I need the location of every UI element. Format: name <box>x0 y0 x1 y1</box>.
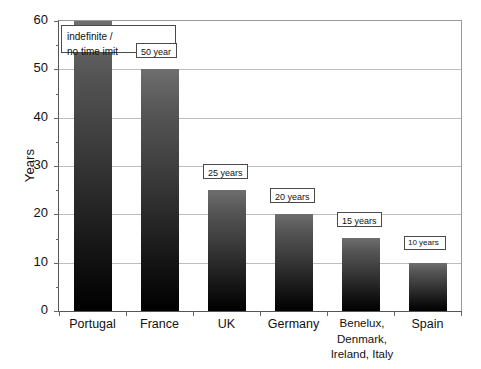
y-axis-tick-20 <box>54 214 59 215</box>
gridline-50 <box>59 69 461 70</box>
y-axis-tick-40 <box>54 118 59 119</box>
x-axis-tick-6 <box>461 311 462 316</box>
x-axis-label-benelux: Benelux, Denmark, Ireland, Italy <box>322 316 402 363</box>
bar-portugal <box>74 21 112 311</box>
bar-benelux <box>342 238 380 311</box>
bar-uk <box>208 190 246 311</box>
y-axis-tick-10 <box>54 263 59 264</box>
y-tick-label-0: 0 <box>14 303 48 316</box>
value-label-benelux: 15 years <box>337 212 382 227</box>
value-label-uk: 25 years <box>203 164 248 179</box>
bar-spain <box>409 263 447 311</box>
value-label-germany: 20 years <box>270 188 315 203</box>
x-axis-label-uk: UK <box>193 316 260 333</box>
x-axis-label-portugal: Portugal <box>59 316 126 333</box>
y-axis-tick-60 <box>54 21 59 22</box>
y-axis-tick-50 <box>54 69 59 70</box>
gridline-40 <box>59 118 461 119</box>
bar-chart: Years 60 50 40 30 20 10 0 <box>0 0 481 369</box>
value-label-france: 50 year <box>136 43 177 58</box>
y-tick-label-20: 20 <box>14 206 48 219</box>
plot-area <box>58 20 462 312</box>
y-axis-tick-30 <box>54 166 59 167</box>
y-axis-minor-tick-35 <box>56 142 59 143</box>
x-axis-label-france: France <box>126 316 193 333</box>
x-axis-label-germany: Germany <box>260 316 327 333</box>
y-axis-minor-tick-25 <box>56 190 59 191</box>
y-axis-minor-tick-15 <box>56 239 59 240</box>
gridline-10 <box>59 263 461 264</box>
y-axis-minor-tick-45 <box>56 94 59 95</box>
y-tick-label-10: 10 <box>14 255 48 268</box>
y-axis-minor-tick-55 <box>56 45 59 46</box>
y-tick-label-60: 60 <box>14 13 48 26</box>
y-tick-label-50: 50 <box>14 61 48 74</box>
gridline-30 <box>59 166 461 167</box>
value-label-spain: 10 years <box>404 236 446 250</box>
y-tick-label-30: 30 <box>14 158 48 171</box>
x-axis-label-spain: Spain <box>394 316 461 333</box>
y-axis-minor-tick-5 <box>56 287 59 288</box>
y-tick-label-40: 40 <box>14 110 48 123</box>
bar-germany <box>275 214 313 311</box>
gridline-20 <box>59 214 461 215</box>
bar-france <box>141 69 179 311</box>
